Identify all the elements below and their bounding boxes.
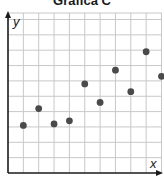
grid-lines	[8, 13, 162, 173]
data-point	[35, 105, 42, 112]
data-point	[66, 117, 73, 124]
y-axis-arrow-icon	[5, 11, 11, 18]
data-point	[143, 48, 150, 55]
data-point	[51, 120, 58, 127]
data-point	[97, 99, 104, 106]
data-points	[20, 48, 164, 128]
axes	[5, 11, 163, 176]
data-point	[112, 67, 119, 74]
data-point	[127, 88, 134, 95]
data-point	[158, 73, 164, 80]
scatter-plot: y x	[0, 0, 164, 180]
y-axis-label: y	[12, 14, 21, 29]
x-axis-label: x	[149, 156, 157, 171]
data-point	[81, 81, 88, 88]
data-point	[20, 122, 27, 129]
